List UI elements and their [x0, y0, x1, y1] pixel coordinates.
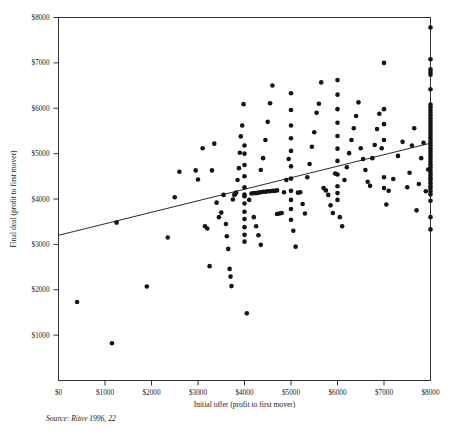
y-tick-label: $2000 [32, 286, 50, 294]
data-point [428, 192, 433, 197]
data-point [414, 208, 419, 213]
data-point [335, 78, 340, 83]
data-point [212, 141, 217, 146]
data-point [291, 228, 296, 233]
data-point [328, 203, 333, 208]
data-point [412, 126, 417, 131]
data-point [245, 311, 250, 316]
y-tick-label: $6000 [32, 105, 50, 113]
scatter-plot-figure: $1000$2000$3000$4000$5000$6000$7000$8000… [0, 0, 454, 435]
data-point [396, 154, 401, 159]
data-point [279, 211, 284, 216]
data-point [242, 209, 247, 214]
data-point [227, 267, 232, 272]
data-point [405, 185, 410, 190]
data-point [228, 274, 233, 279]
x-tick-label: $6000 [329, 389, 347, 397]
data-point [242, 225, 247, 230]
data-point [382, 138, 387, 143]
x-tick-label: $8000 [422, 389, 440, 397]
data-point [226, 247, 231, 252]
data-point [242, 217, 247, 222]
data-point [242, 143, 247, 148]
data-point [365, 179, 370, 184]
data-point [241, 102, 246, 107]
data-point [193, 168, 198, 173]
data-point [289, 108, 294, 113]
data-point [225, 234, 230, 239]
data-point [270, 83, 275, 88]
data-point [289, 149, 294, 154]
data-point [110, 341, 115, 346]
data-point [335, 198, 340, 203]
data-point [384, 202, 389, 207]
data-point [289, 123, 294, 128]
x-tick-label: $1000 [96, 389, 114, 397]
data-point [289, 189, 294, 194]
data-point [335, 134, 340, 139]
y-tick-label: $3000 [32, 241, 50, 249]
data-point [242, 201, 247, 206]
data-point [428, 215, 433, 220]
data-point [326, 193, 331, 198]
x-tick-label: $7000 [375, 389, 393, 397]
data-point [289, 198, 294, 203]
plot-canvas: $1000$2000$3000$4000$5000$6000$7000$8000… [0, 0, 454, 435]
data-point [275, 188, 280, 193]
data-point [235, 178, 240, 183]
y-axis-title: Final deal (profit to first mover) [9, 150, 18, 248]
y-tick-label: $1000 [32, 332, 50, 340]
data-point [145, 284, 150, 289]
data-point [335, 184, 340, 189]
data-point [382, 186, 387, 191]
data-point [307, 162, 312, 167]
data-point [382, 107, 387, 112]
data-point [314, 110, 319, 115]
data-point [310, 145, 315, 150]
y-tick-label: $5000 [32, 150, 50, 158]
data-point [242, 233, 247, 238]
data-point [324, 188, 329, 193]
data-point [214, 200, 219, 205]
data-point [379, 146, 384, 151]
data-point [335, 107, 340, 112]
data-point [172, 195, 177, 200]
data-point [293, 244, 298, 249]
data-point [289, 136, 294, 141]
data-point [317, 101, 322, 106]
data-point [335, 172, 340, 177]
data-point [428, 25, 433, 30]
data-point [231, 197, 236, 202]
data-point [428, 87, 433, 92]
data-point [312, 130, 317, 135]
data-point [331, 211, 336, 216]
data-point [305, 175, 310, 180]
data-point [242, 194, 247, 199]
data-point [258, 168, 263, 173]
y-tick-label: $4000 [32, 196, 50, 204]
data-point [258, 243, 263, 248]
data-point [377, 111, 382, 116]
data-point [335, 191, 340, 196]
data-point [238, 150, 243, 155]
data-point [363, 168, 368, 173]
data-point [286, 157, 291, 162]
data-point [340, 224, 345, 229]
data-point [335, 120, 340, 125]
data-point [368, 184, 373, 189]
data-point [417, 182, 422, 187]
data-point [391, 177, 396, 182]
x-tick-label: $2000 [143, 389, 161, 397]
data-point [268, 101, 273, 106]
data-point [428, 199, 433, 204]
y-axis-ticks: $1000$2000$3000$4000$5000$6000$7000$8000 [32, 14, 59, 340]
data-point [428, 57, 433, 62]
data-point [229, 284, 234, 289]
data-point [372, 143, 377, 148]
data-point [375, 127, 380, 132]
data-point [349, 138, 354, 143]
y-tick-label: $8000 [32, 14, 50, 22]
data-point [289, 91, 294, 96]
data-point [335, 146, 340, 151]
data-point [428, 72, 433, 77]
